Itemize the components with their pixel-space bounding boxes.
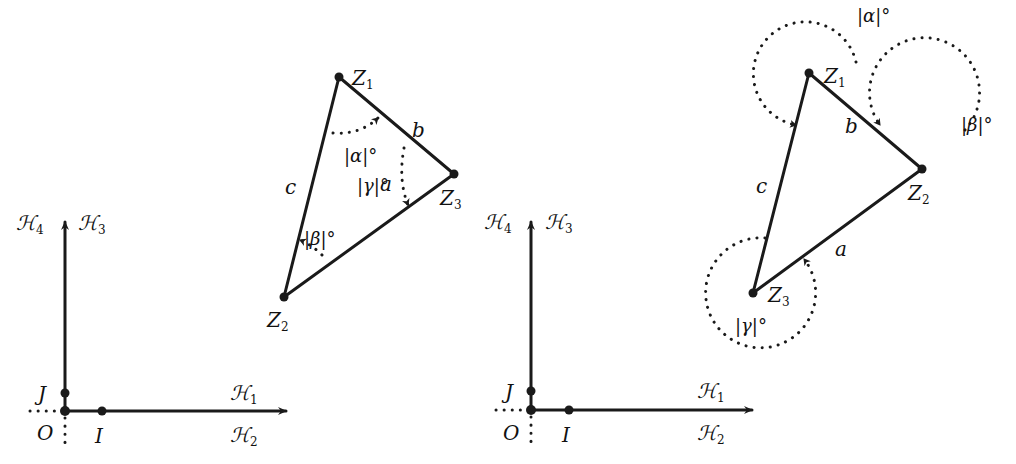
- left-h1-label: ℋ1: [230, 381, 258, 407]
- right-h2-label: ℋ2: [697, 421, 725, 447]
- right-alpha-label: |α|°: [857, 5, 890, 27]
- right-h4-label: ℋ4: [484, 210, 512, 236]
- right-unit-i-point: [565, 406, 574, 415]
- left-vertex-z3: [450, 170, 459, 179]
- right-origin-point: [526, 405, 536, 415]
- right-unit-i-label: I: [561, 423, 571, 447]
- right-vertex-z1: [805, 69, 814, 78]
- right-unit-j-point: [527, 387, 536, 396]
- left-origin-label: O: [37, 421, 53, 445]
- figure-canvas: O I J ℋ1 ℋ2 ℋ3 ℋ4 Z1 Z2 Z3 a b c |α|° |γ…: [0, 0, 1016, 464]
- left-side-c-label: c: [285, 175, 296, 199]
- left-triangle: Z1 Z2 Z3 a b c |α|° |γ|° |β|°: [266, 66, 462, 334]
- right-z3-label: Z3: [767, 283, 790, 309]
- left-z2-label: Z2: [266, 308, 289, 334]
- right-origin-label: O: [503, 421, 519, 445]
- left-h2-label: ℋ2: [230, 423, 258, 449]
- left-z1-label: Z1: [351, 66, 374, 92]
- right-triangle: Z1 Z2 Z3 a b c |α|° |β|° |γ|°: [706, 5, 993, 348]
- left-origin-point: [60, 406, 70, 416]
- left-z3-label: Z3: [439, 186, 462, 212]
- left-beta-label: |β|°: [304, 228, 336, 250]
- left-unit-j-point: [61, 389, 70, 398]
- right-side-b-label: b: [845, 114, 858, 138]
- left-vertex-z2: [280, 293, 289, 302]
- left-unit-j-label: J: [34, 382, 47, 406]
- right-gamma-label: |γ|°: [735, 315, 767, 337]
- left-gamma-label: |γ|°: [357, 175, 389, 197]
- left-side-b-label: b: [412, 118, 425, 142]
- right-side-a-label: a: [835, 237, 847, 261]
- left-unit-i-label: I: [94, 424, 104, 448]
- left-unit-i-point: [98, 407, 107, 416]
- left-alpha-label: |α|°: [344, 145, 377, 167]
- right-unit-j-label: J: [501, 380, 514, 404]
- right-z2-label: Z2: [907, 181, 930, 207]
- left-axes: O I J ℋ1 ℋ2 ℋ3 ℋ4: [16, 211, 286, 450]
- left-alpha-arc: [333, 118, 378, 133]
- right-axes: O I J ℋ1 ℋ2 ℋ3 ℋ4: [484, 210, 752, 448]
- left-vertex-z1: [335, 73, 344, 82]
- left-h3-label: ℋ3: [78, 211, 106, 237]
- right-h1-label: ℋ1: [697, 379, 725, 405]
- right-vertex-z2: [918, 165, 927, 174]
- right-beta-label: |β|°: [961, 114, 993, 136]
- right-h3-label: ℋ3: [545, 210, 573, 236]
- left-gamma-arc: [402, 148, 408, 205]
- right-side-c-label: c: [756, 174, 767, 198]
- right-z1-label: Z1: [823, 64, 846, 90]
- left-h4-label: ℋ4: [16, 211, 44, 237]
- right-vertex-z3: [749, 289, 758, 298]
